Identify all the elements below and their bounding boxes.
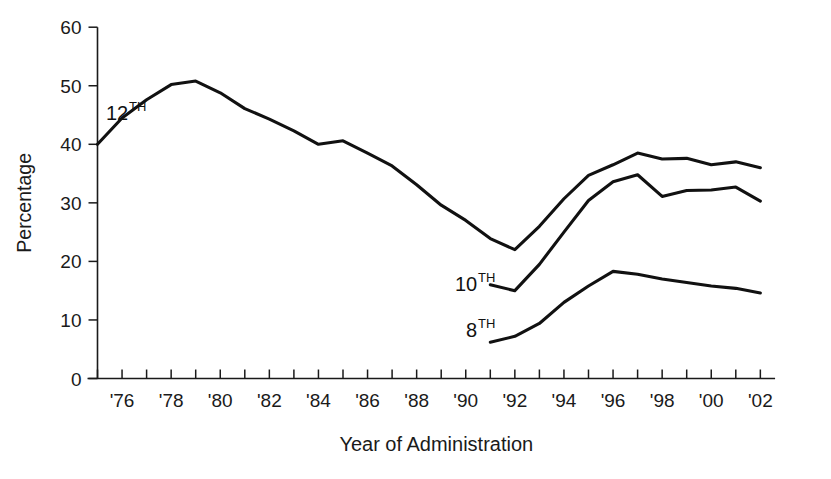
x-tick-label-1990: '90: [453, 390, 478, 411]
y-tick-label-60: 60: [60, 17, 81, 38]
x-tick-label-1988: '88: [404, 390, 429, 411]
x-tick-label-1984: '84: [306, 390, 331, 411]
series-line-8th: [490, 271, 760, 342]
data-series-group: [98, 81, 761, 342]
series-label-12th-superscript: TH: [129, 99, 146, 114]
x-tick-label-2000: '00: [699, 390, 724, 411]
series-label-8th-base: 8: [466, 319, 477, 341]
x-tick-label-1978: '78: [159, 390, 184, 411]
series-label-12th: 12TH: [106, 99, 146, 124]
series-label-10th-superscript: TH: [478, 270, 495, 285]
y-tick-label-40: 40: [60, 134, 81, 155]
chart-container: 0102030405060 '76'78'80'82'84'86'88'90'9…: [0, 0, 831, 479]
axes-group: [88, 27, 776, 378]
x-tick-label-1994: '94: [552, 390, 577, 411]
y-tick-label-10: 10: [60, 310, 81, 331]
x-tick-label-1996: '96: [601, 390, 626, 411]
series-label-10th: 10TH: [455, 270, 495, 295]
y-tick-label-20: 20: [60, 251, 81, 272]
y-tick-label-0: 0: [71, 369, 82, 390]
x-tick-label-2002: '02: [748, 390, 773, 411]
tick-marks-group: [89, 27, 761, 378]
x-tick-label-1998: '98: [650, 390, 675, 411]
series-label-10th-base: 10: [455, 273, 477, 295]
series-label-8th: 8TH: [466, 316, 495, 341]
x-tick-label-1976: '76: [110, 390, 135, 411]
y-tick-label-30: 30: [60, 193, 81, 214]
series-label-12th-base: 12: [106, 102, 128, 124]
series-label-8th-superscript: TH: [478, 316, 495, 331]
line-chart-plot: 0102030405060 '76'78'80'82'84'86'88'90'9…: [0, 0, 831, 479]
x-axis-title: Year of Administration: [339, 433, 533, 455]
x-tick-label-1986: '86: [355, 390, 380, 411]
series-line-12th: [98, 81, 761, 250]
y-axis-title: Percentage: [13, 153, 35, 253]
x-tick-labels-group: '76'78'80'82'84'86'88'90'92'94'96'98'00'…: [110, 390, 773, 411]
x-tick-label-1980: '80: [208, 390, 233, 411]
x-tick-label-1982: '82: [257, 390, 282, 411]
x-tick-label-1992: '92: [502, 390, 527, 411]
y-tick-label-50: 50: [60, 76, 81, 97]
y-tick-labels-group: 0102030405060: [60, 17, 81, 389]
